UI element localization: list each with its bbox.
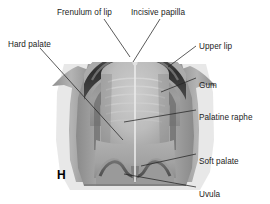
label-uvula: Uvula <box>199 190 220 200</box>
figure-panel: Frenulum of lip Incisive papilla Hard pa… <box>0 0 270 204</box>
label-gum: Gum <box>199 81 217 91</box>
label-frenulum-of-lip: Frenulum of lip <box>57 8 112 18</box>
label-soft-palate: Soft palate <box>199 157 239 167</box>
label-palatine-raphe: Palatine raphe <box>199 113 253 123</box>
label-incisive-papilla: Incisive papilla <box>131 8 185 18</box>
oral-cavity-illustration <box>0 0 270 204</box>
label-upper-lip: Upper lip <box>199 42 232 52</box>
panel-letter: H <box>57 168 66 182</box>
label-hard-palate: Hard palate <box>8 40 51 50</box>
